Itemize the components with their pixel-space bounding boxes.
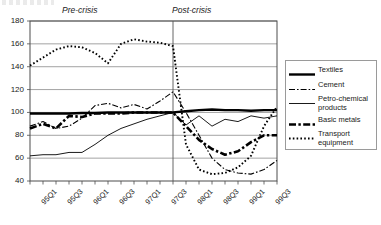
legend-item: Transport equipment bbox=[289, 130, 373, 147]
legend-line-swatch bbox=[289, 116, 315, 127]
series-line-1 bbox=[30, 92, 277, 174]
legend-item-label: Cement bbox=[318, 81, 344, 90]
legend-line-swatch bbox=[289, 130, 315, 141]
series-line-4 bbox=[30, 39, 277, 174]
plot-frame bbox=[30, 21, 277, 181]
chart-legend: TextilesCementPetro-chemical productsBas… bbox=[285, 60, 377, 150]
legend-line-swatch bbox=[289, 95, 315, 106]
series-line-3 bbox=[30, 112, 277, 154]
legend-line-swatch bbox=[289, 66, 315, 77]
chart-container: Pre-crisis Post-crisis 40608010012014016… bbox=[0, 0, 381, 225]
legend-item-label: Textiles bbox=[318, 66, 343, 75]
legend-item-label: Basic metals bbox=[318, 116, 361, 125]
legend-line-swatch bbox=[289, 81, 315, 92]
legend-item: Basic metals bbox=[289, 116, 373, 127]
legend-item: Petro-chemical products bbox=[289, 95, 373, 112]
legend-item: Textiles bbox=[289, 66, 373, 77]
legend-item-label: Transport equipment bbox=[318, 130, 373, 147]
legend-item-label: Petro-chemical products bbox=[318, 95, 373, 112]
legend-item: Cement bbox=[289, 81, 373, 92]
series-line-2 bbox=[30, 112, 277, 155]
